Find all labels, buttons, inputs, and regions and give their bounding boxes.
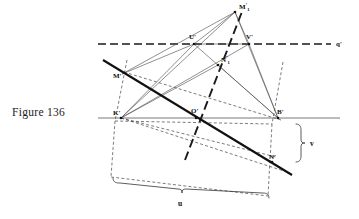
brace-label-u: u	[178, 199, 182, 208]
label-U-prime: U'	[189, 33, 196, 41]
brace-label-v: v	[310, 139, 314, 148]
label-V-prime: V'	[246, 33, 253, 41]
label-N1-prime: N'1	[221, 55, 231, 66]
label-N-prime: N'	[269, 153, 276, 161]
brace-vertical-right	[296, 124, 305, 162]
thick-diagonal-line	[103, 60, 292, 175]
figure-container: Figure 136	[0, 0, 359, 219]
label-M1-prime: M'1	[239, 2, 250, 13]
construction-rays	[121, 12, 278, 118]
label-O-prime: O'	[191, 107, 198, 115]
label-M-prime: M'	[113, 72, 122, 80]
label-B-prime: B'	[277, 108, 284, 116]
label-q-prime: q'	[336, 40, 342, 48]
vertical-dashed-guides	[115, 60, 283, 124]
label-K-prime: K'	[113, 109, 120, 117]
brace-horizontal-bottom	[113, 178, 269, 198]
point-markers	[120, 11, 280, 164]
figure-drawing: v u M'1 U' V' q' N'1 M' K' O' B' N'	[0, 0, 359, 219]
